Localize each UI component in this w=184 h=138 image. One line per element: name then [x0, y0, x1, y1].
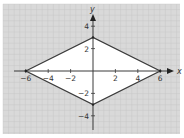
x-tick-label: 4 — [135, 74, 140, 83]
y-tick-label: −4 — [78, 112, 89, 121]
vertex-point — [159, 70, 161, 72]
x-tick-label: −6 — [20, 74, 31, 83]
x-axis-label: x — [176, 67, 182, 76]
vertex-point — [92, 36, 94, 38]
x-tick-label: 6 — [158, 74, 163, 83]
y-tick-label: −2 — [78, 89, 89, 98]
y-axis-label: y — [89, 5, 95, 14]
x-tick-label: −2 — [65, 74, 76, 83]
plot-svg: x y −6−4−224642−2−4 — [0, 0, 184, 138]
coordinate-plane-figure: x y −6−4−224642−2−4 — [0, 0, 184, 138]
y-tick-label: 4 — [84, 22, 89, 31]
vertex-point — [25, 70, 27, 72]
y-tick-label: 2 — [84, 45, 89, 54]
vertex-point — [92, 103, 94, 105]
x-tick-label: −4 — [43, 74, 54, 83]
x-tick-label: 2 — [113, 74, 118, 83]
